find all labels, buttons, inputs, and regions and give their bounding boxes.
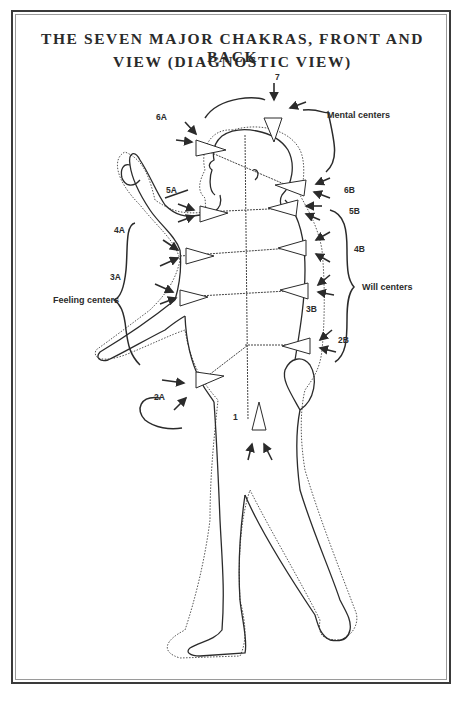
label-chakra-3b: 3B [306, 305, 317, 314]
label-chakra-6a: 6A [156, 113, 167, 122]
label-chakra-3a: 3A [110, 273, 121, 282]
group-braces [114, 98, 354, 429]
label-chakra-2b: 2B [338, 336, 349, 345]
label-chakra-5b: 5B [349, 207, 360, 216]
label-chakra-4b: 4B [354, 245, 365, 254]
label-will-centers: Will centers [362, 283, 412, 292]
label-chakra-6b: 6B [344, 186, 355, 195]
label-chakra-2a: 2A [154, 393, 165, 402]
label-feeling-centers: Feeling centers [53, 296, 119, 305]
label-mental-centers: Mental centers [327, 111, 390, 120]
label-chakra-5a: 5A [166, 186, 177, 195]
body-outline [98, 130, 350, 656]
chakra-cones [180, 118, 310, 430]
label-chakra-1: 1 [233, 413, 238, 422]
label-chakra-4a: 4A [114, 226, 125, 235]
label-chakra-7: 7 [275, 73, 280, 82]
chakra-figure-illustration [0, 0, 467, 704]
